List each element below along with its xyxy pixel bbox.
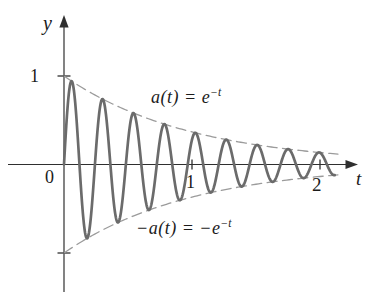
lower-envelope-label: −a(t) = −e−t [136,218,231,237]
y-axis-label: y [43,13,52,33]
plot-canvas [0,0,380,298]
x-tick-label-2: 2 [312,175,322,194]
upper-envelope-label-base: a(t) = e [151,87,210,107]
origin-label: 0 [45,168,54,186]
damped-oscillation-figure: y t 0 1 1 2 a(t) = e−t −a(t) = −e−t [0,0,380,298]
y-tick-label-1: 1 [30,67,39,85]
lower-envelope-label-base: −a(t) = −e [136,218,220,238]
lower-envelope-label-exponent: −t [220,217,231,229]
y-axis-arrow [59,15,68,28]
x-axis-label: t [356,169,361,188]
x-tick-label-1: 1 [186,173,195,191]
upper-envelope-label: a(t) = e−t [151,87,221,106]
upper-envelope-label-exponent: −t [210,86,221,98]
lower-envelope-curve [64,175,338,253]
